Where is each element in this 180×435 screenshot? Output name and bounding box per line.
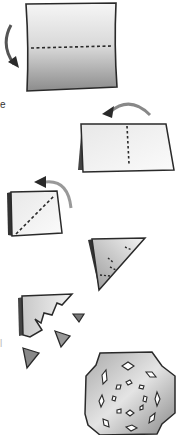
step-6-snowflake bbox=[85, 352, 175, 435]
curved-arrow-down-icon bbox=[6, 25, 19, 68]
step-3-small-square bbox=[7, 191, 62, 236]
curved-arrow-left-icon bbox=[102, 104, 150, 118]
cut-piece bbox=[73, 314, 84, 322]
cut-piece bbox=[23, 348, 39, 368]
step-2-rectangle bbox=[78, 124, 174, 172]
step-4-triangle bbox=[88, 238, 145, 290]
step-5-cut-shape bbox=[18, 294, 72, 337]
step-1-square bbox=[26, 3, 117, 91]
snowflake-folding-diagram bbox=[0, 0, 180, 435]
cut-piece bbox=[55, 331, 70, 347]
